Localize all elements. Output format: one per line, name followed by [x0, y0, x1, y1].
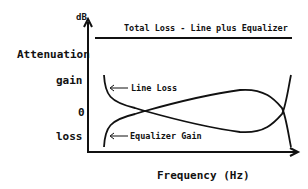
- zero-label: 0: [78, 106, 85, 119]
- line-loss-label: Line Loss: [131, 83, 177, 93]
- gain-label: gain: [56, 74, 83, 87]
- total-loss-label: Total Loss - Line plus Equalizer: [124, 23, 288, 33]
- attenuation-label: Attenuation: [17, 48, 90, 61]
- y-unit-label: dB: [76, 12, 87, 22]
- equalizer-gain-label: Equalizer Gain: [130, 131, 202, 141]
- x-axis-label: Frequency (Hz): [157, 169, 250, 182]
- loss-label: loss: [56, 130, 83, 143]
